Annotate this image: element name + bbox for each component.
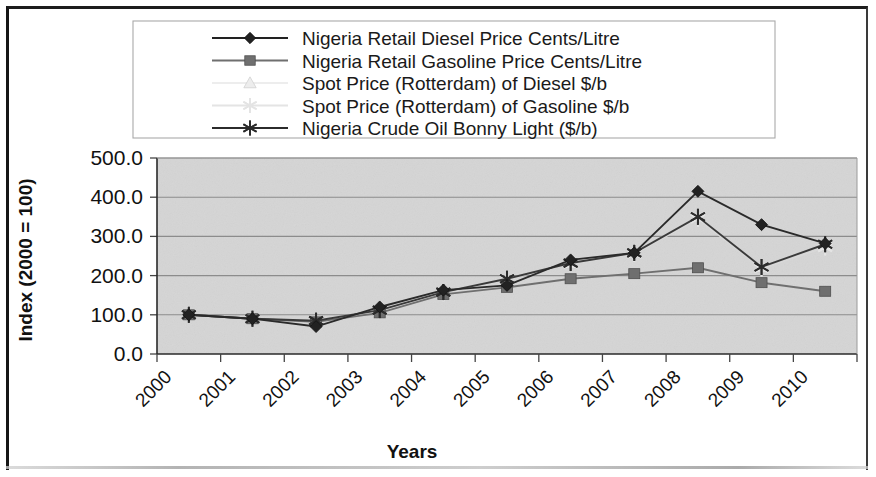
line-chart: 0.0100.0200.0300.0400.0500.0 20002001200… bbox=[0, 0, 876, 477]
y-tick-label: 500.0 bbox=[90, 146, 143, 169]
x-tick-label: 2006 bbox=[513, 366, 558, 411]
x-tick-label: 2010 bbox=[767, 366, 812, 411]
legend-label: Spot Price (Rotterdam) of Gasoline $/b bbox=[302, 96, 629, 117]
legend-label: Spot Price (Rotterdam) of Diesel $/b bbox=[302, 73, 607, 94]
x-tick-label: 2000 bbox=[131, 366, 176, 411]
x-tick-label: 2008 bbox=[640, 366, 685, 411]
x-tick-label: 2009 bbox=[704, 366, 749, 411]
legend-label: Nigeria Retail Gasoline Price Cents/Litr… bbox=[302, 51, 642, 72]
data-point-marker bbox=[692, 263, 703, 273]
y-tick-label: 200.0 bbox=[90, 264, 143, 287]
x-tick-label: 2005 bbox=[449, 366, 494, 411]
chart-legend: Nigeria Retail Diesel Price Cents/LitreN… bbox=[133, 21, 775, 139]
data-point-marker bbox=[565, 274, 576, 284]
x-tick-label: 2003 bbox=[322, 366, 367, 411]
y-tick-label: 300.0 bbox=[90, 224, 143, 247]
y-axis-tick-labels: 0.0100.0200.0300.0400.0500.0 bbox=[90, 146, 143, 365]
y-tick-label: 100.0 bbox=[90, 303, 143, 326]
y-tick-label: 0.0 bbox=[114, 342, 143, 365]
x-tick-label: 2004 bbox=[385, 366, 430, 411]
legend-label: Nigeria Crude Oil Bonny Light ($/b) bbox=[302, 118, 598, 139]
plot-area-background bbox=[157, 158, 857, 354]
data-point-marker bbox=[756, 278, 767, 288]
x-tick-label: 2007 bbox=[576, 366, 621, 411]
y-axis-title: Index (2000 = 100) bbox=[15, 178, 36, 341]
x-axis-tick-labels: 2000200120022003200420052006200720082009… bbox=[131, 354, 857, 411]
screenshot-page: 0.0100.0200.0300.0400.0500.0 20002001200… bbox=[0, 0, 876, 477]
x-axis-title: Years bbox=[387, 441, 438, 462]
data-point-marker bbox=[820, 286, 831, 296]
data-point-marker bbox=[629, 269, 640, 279]
y-tick-label: 400.0 bbox=[90, 185, 143, 208]
x-tick-label: 2001 bbox=[195, 366, 240, 411]
x-tick-label: 2002 bbox=[258, 366, 303, 411]
legend-label: Nigeria Retail Diesel Price Cents/Litre bbox=[302, 28, 620, 49]
